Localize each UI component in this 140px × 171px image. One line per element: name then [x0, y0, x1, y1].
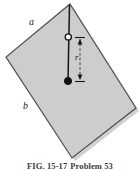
figure-drawing — [0, 0, 140, 171]
filled-circle-mass-icon — [64, 77, 71, 84]
figure-container: a b r FIG. 15-17Problem 53 — [0, 0, 140, 171]
side-label-a: a — [29, 17, 34, 27]
figure-caption: FIG. 15-17Problem 53 — [0, 161, 140, 171]
caption-problem-label: Problem 53 — [70, 161, 113, 171]
side-label-b: b — [23, 101, 28, 111]
open-circle-pivot-icon — [65, 34, 71, 40]
distance-label-r: r — [75, 53, 79, 62]
caption-figure-number: FIG. 15-17 — [27, 161, 67, 171]
